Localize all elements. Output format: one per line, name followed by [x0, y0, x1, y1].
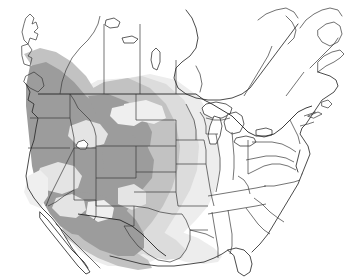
- lake-huron: [224, 112, 244, 134]
- map-canvas: [0, 0, 346, 280]
- lake-erie: [234, 136, 256, 146]
- distribution-map-figure: [0, 0, 346, 280]
